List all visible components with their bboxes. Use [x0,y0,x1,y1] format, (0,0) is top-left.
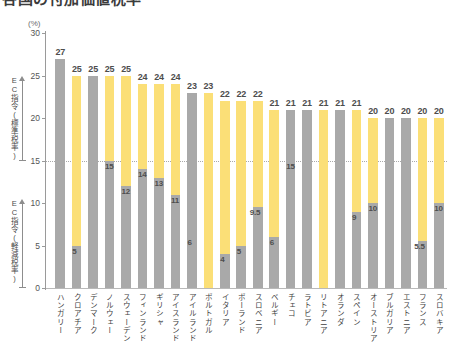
bar-group[interactable] [418,118,428,288]
bar-standard-rate [286,110,296,289]
category-label-22: フランス [418,293,426,326]
category-label-4: スウェーデン [122,293,130,342]
category-label-2: デンマーク [89,293,97,334]
category-label-19: オーストリア [369,293,377,342]
category-label-10: イタリア [221,293,229,326]
bar-value-reduced: 13 [154,179,163,188]
category-label-17: オランダ [336,293,344,326]
bar-group[interactable] [187,93,197,289]
category-label-21: エストニア [402,293,410,334]
category-label-16: リトアニア [319,293,327,334]
bar-reduced-rate [171,195,181,289]
bar-value-reduced: 15 [286,162,295,171]
bar-reduced-rate [121,186,131,288]
bar-value-reduced: 5 [72,247,76,256]
category-label-3: ノルウェー [105,293,113,334]
bar-value-reduced: 15 [105,162,114,171]
bar-group[interactable] [236,101,246,288]
bar-value-standard: 27 [49,47,71,57]
bar-value-reduced: 10 [368,204,377,213]
bar-group[interactable] [302,110,312,289]
bar-group[interactable] [352,110,362,289]
bar-standard-rate [187,93,197,289]
bar-reduced-rate [105,161,115,289]
bar-standard-rate [319,110,329,289]
category-label-8: アイルランド [188,293,196,342]
bar-group[interactable] [138,84,148,288]
bar-value-reduced: 10 [434,204,443,213]
bar-reduced-rate [368,203,378,288]
bar-value-reduced: 9.5 [250,208,261,217]
bar-group[interactable] [335,110,345,289]
category-label-5: フィンランド [138,293,146,342]
bar-group[interactable] [88,76,98,289]
bar-reduced-rate [434,203,444,288]
bar-value-reduced: 4 [220,255,224,264]
bar-group[interactable] [368,118,378,288]
bar-value-reduced: 12 [122,187,131,196]
bar-group[interactable] [105,76,115,289]
bar-standard-rate [55,59,65,289]
category-label-13: ベルギー [270,293,278,326]
bar-value-reduced: 11 [171,196,179,205]
bar-value-reduced: 5 [237,247,241,256]
bar-group[interactable] [72,76,82,289]
bar-reduced-rate [138,169,148,288]
category-label-0: ハンガリー [56,293,64,334]
bar-group[interactable] [385,118,395,288]
category-label-9: ポルトガル [204,293,212,334]
category-label-1: クロアチア [72,293,80,334]
bar-standard-rate [401,118,411,288]
bar-standard-rate [302,110,312,289]
bar-value-reduced: 6 [187,238,191,247]
bar-group[interactable] [269,110,279,289]
bar-group[interactable] [286,110,296,289]
bar-group[interactable] [434,118,444,288]
bar-group[interactable] [253,101,263,288]
bar-value-reduced: 5.5 [414,242,425,251]
category-label-20: ブルガリア [385,293,393,334]
bar-group[interactable] [171,84,181,288]
category-label-18: スペイン [352,293,360,326]
bar-value-reduced: 6 [270,238,274,247]
bar-reduced-rate [154,178,164,289]
bar-value-standard: 20 [428,106,450,116]
category-label-14: チェコ [286,293,294,318]
bar-group[interactable] [401,118,411,288]
category-label-11: ポーランド [237,293,245,334]
bar-standard-rate [204,93,214,289]
bar-group[interactable] [121,76,131,289]
bar-group[interactable] [204,93,214,289]
bar-reduced-rate [253,207,263,288]
bar-reduced-rate [352,212,362,289]
category-label-23: スロバキア [435,293,443,334]
bar-standard-rate [88,76,98,289]
bar-standard-rate [385,118,395,288]
bar-value-reduced: 9 [352,213,356,222]
category-label-15: ラトビア [303,293,311,326]
bar-group[interactable] [55,59,65,289]
bar-value-reduced: 14 [138,170,147,179]
bar-group[interactable] [319,110,329,289]
bar-standard-rate [335,110,345,289]
category-label-12: スロベニア [254,293,262,334]
category-label-6: ギリシャ [155,293,163,326]
category-label-7: アイスランド [171,293,179,342]
chart-container: 各国の付加価値税率 (%) 051015202530 EC指令(標準税率) EC… [0,0,453,362]
